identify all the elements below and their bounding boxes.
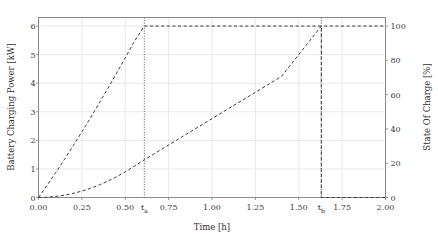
y-tick-label-right: 80 — [391, 56, 401, 65]
x-tick-label: 1.50 — [290, 203, 308, 212]
y-tick-label-right: 40 — [391, 124, 401, 133]
y-tick-label-right: 0 — [391, 193, 396, 202]
y-tick-label-right: 20 — [391, 159, 401, 168]
chart-figure: 0.000.250.500.751.001.251.501.752.000123… — [0, 0, 438, 240]
y-axis-right-title: State Of Charge [%] — [422, 63, 432, 150]
x-tick-label: 1.75 — [333, 203, 351, 212]
y-tick-label-right: 100 — [391, 22, 406, 31]
y-tick-label-right: 60 — [391, 90, 401, 99]
x-tick-label: 0.00 — [30, 203, 48, 212]
x-tick-label: 0.75 — [160, 203, 178, 212]
y-axis-left-title: Battery Charging Power [kW] — [6, 43, 16, 171]
marker-label-t_a: ta — [141, 203, 148, 214]
y-tick-label-left: 0 — [28, 193, 36, 202]
x-tick-label: 2.00 — [377, 203, 395, 212]
marker-label-subscript: a — [144, 206, 148, 213]
x-axis-title: Time [h] — [194, 222, 230, 232]
y-tick-label-left: 3 — [28, 107, 36, 116]
x-tick-label: 1.25 — [246, 203, 264, 212]
x-tick-label: 1.00 — [203, 203, 221, 212]
y-tick-label-left: 4 — [28, 79, 36, 88]
marker-label-subscript: b — [321, 206, 325, 213]
y-tick-label-left: 5 — [28, 50, 36, 59]
y-tick-label-left: 1 — [28, 164, 36, 173]
x-tick-label: 0.25 — [73, 203, 91, 212]
vertical-marker-lines — [144, 18, 321, 198]
x-tick-label: 0.50 — [116, 203, 134, 212]
marker-label-t_b: tb — [318, 203, 325, 214]
gridlines — [39, 18, 386, 198]
y-tick-label-left: 2 — [28, 136, 36, 145]
y-tick-label-left: 6 — [28, 22, 36, 31]
